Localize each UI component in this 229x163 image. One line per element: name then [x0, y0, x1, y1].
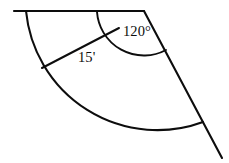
- radius-label: 15': [78, 50, 95, 65]
- right-radius-ray: [144, 11, 222, 158]
- angle-label: 120°: [123, 24, 151, 39]
- sector-diagram: 120° 15': [0, 0, 229, 163]
- sector-drawing: [0, 0, 229, 163]
